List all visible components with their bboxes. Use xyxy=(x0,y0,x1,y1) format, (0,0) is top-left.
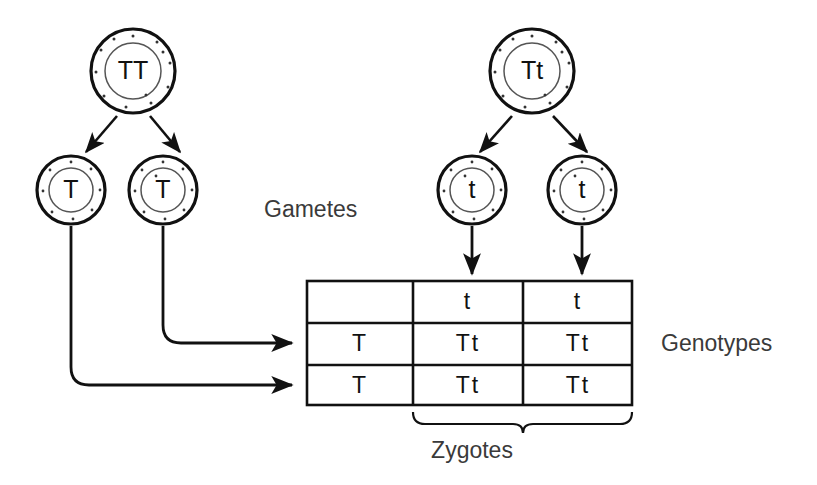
gamete-cell-right-1: t xyxy=(438,156,506,224)
label-genotypes: Genotypes xyxy=(661,330,772,356)
connector-gamete-left-1-to-row-2 xyxy=(71,226,292,385)
gamete-right-1-allele: t xyxy=(469,175,476,203)
punnett-row-header-1: T xyxy=(352,330,368,356)
parent-right-genotype: Tt xyxy=(521,56,543,84)
meiosis-arrow-right-1 xyxy=(480,116,512,152)
punnett-col-header-1: t xyxy=(464,288,472,314)
parent-cell-left: TT xyxy=(91,29,175,113)
gamete-connectors-left xyxy=(71,226,292,385)
gamete-cell-right-2: t xyxy=(548,156,616,224)
gamete-cell-left-1: T xyxy=(37,156,105,224)
meiosis-arrow-left-2 xyxy=(150,116,180,152)
meiosis-arrow-right-2 xyxy=(553,116,587,152)
meiosis-arrows-right xyxy=(480,116,587,152)
gamete-connectors-right xyxy=(472,226,582,274)
gamete-right-2-allele: t xyxy=(579,175,586,203)
gamete-cell-left-2: T xyxy=(129,156,197,224)
punnett-square: t t T Tt Tt T Tt Tt xyxy=(307,281,632,405)
punnett-col-header-2: t xyxy=(574,288,582,314)
label-gametes: Gametes xyxy=(264,196,357,222)
parent-cell-right: Tt xyxy=(490,29,574,113)
punnett-cell-r2c1: Tt xyxy=(456,372,480,398)
genetics-cross-diagram: TT Tt xyxy=(0,0,817,485)
gamete-left-2-allele: T xyxy=(155,175,170,203)
meiosis-arrow-left-1 xyxy=(86,116,117,152)
zygotes-brace xyxy=(413,412,632,433)
parent-left-genotype: TT xyxy=(118,56,149,84)
label-zygotes: Zygotes xyxy=(431,437,513,463)
brace-icon xyxy=(413,412,632,433)
diagram-canvas: TT Tt xyxy=(0,0,817,485)
punnett-row-header-2: T xyxy=(352,372,368,398)
punnett-cell-r1c1: Tt xyxy=(456,330,480,356)
meiosis-arrows-left xyxy=(86,116,180,152)
gamete-left-1-allele: T xyxy=(63,175,78,203)
punnett-cell-r1c2: Tt xyxy=(566,330,590,356)
punnett-cell-r2c2: Tt xyxy=(566,372,590,398)
connector-gamete-left-2-to-row-1 xyxy=(163,226,292,343)
